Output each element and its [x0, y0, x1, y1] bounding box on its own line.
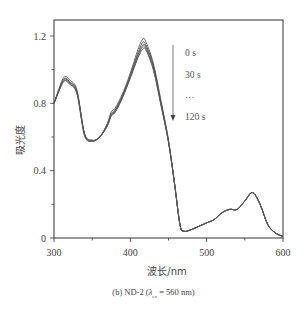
x-tick-label: 400: [123, 247, 138, 258]
y-tick-label: 0.8: [34, 98, 47, 109]
plot-border: [54, 20, 283, 238]
series-lines: [54, 38, 283, 236]
y-tick-label: 1.2: [34, 31, 47, 42]
absorbance-chart: 30040050060000.40.81.2 0 s 30 s … 120 s …: [0, 0, 307, 316]
x-tick-label: 500: [199, 247, 214, 258]
y-tick-label: 0.4: [34, 165, 47, 176]
legend-label-30s: 30 s: [185, 70, 201, 80]
arrow-down-icon: [171, 115, 176, 121]
plot-frame: [54, 20, 283, 238]
series-line-0s: [54, 38, 283, 236]
x-tick-label: 300: [47, 247, 62, 258]
series-line-120s: [54, 48, 283, 237]
legend-label-ellipsis: …: [185, 90, 195, 100]
legend-label-120s: 120 s: [185, 112, 206, 122]
legend: 0 s 30 s … 120 s: [171, 45, 206, 122]
legend-label-0s: 0 s: [185, 48, 196, 58]
caption-prefix: (b) ND-2 (: [112, 287, 148, 297]
series-line-30s: [54, 42, 283, 237]
y-axis-title: 吸光度: [14, 125, 26, 155]
y-tick-label: 0: [41, 233, 46, 244]
axis-ticks: 30040050060000.40.81.2: [34, 31, 291, 259]
caption-suffix: = 560 nm): [157, 287, 195, 297]
x-axis-title: 波长/nm: [147, 265, 186, 277]
figure-caption: (b) ND-2 (λex = 560 nm): [0, 287, 307, 299]
x-tick-label: 600: [276, 247, 291, 258]
